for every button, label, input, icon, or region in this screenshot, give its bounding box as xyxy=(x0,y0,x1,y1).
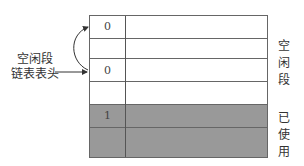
next-link-arrow-icon xyxy=(74,27,88,70)
pointer-arrows xyxy=(0,0,304,166)
used-segment-label: 已 使 用 xyxy=(278,110,290,161)
free-segment-label: 空 闲 段 xyxy=(278,38,290,89)
